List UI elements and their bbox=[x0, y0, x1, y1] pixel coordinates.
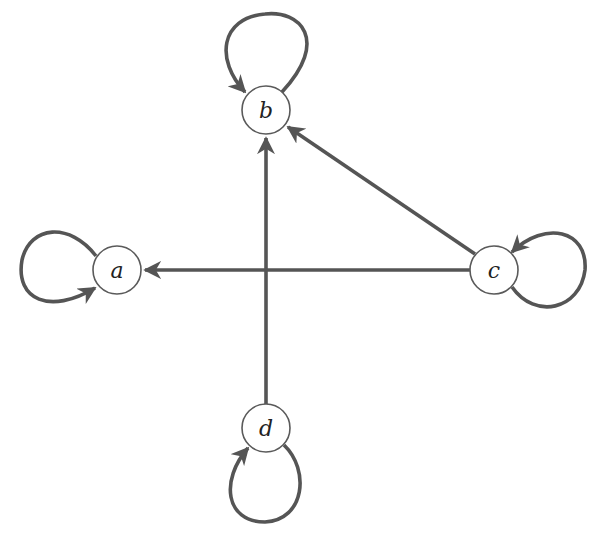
self-loop-a bbox=[21, 232, 96, 302]
node-label-a: a bbox=[110, 258, 123, 283]
self-loop-c bbox=[512, 233, 585, 307]
self-loop-b bbox=[226, 14, 307, 92]
directed-graph: a b c d bbox=[0, 0, 593, 537]
node-b[interactable]: b bbox=[242, 86, 290, 134]
node-d[interactable]: d bbox=[242, 404, 290, 452]
node-label-d: d bbox=[259, 416, 273, 441]
self-loop-d bbox=[230, 445, 300, 522]
node-c[interactable]: c bbox=[470, 246, 518, 294]
edge-c-to-b bbox=[288, 127, 475, 254]
node-label-c: c bbox=[488, 258, 500, 283]
node-a[interactable]: a bbox=[93, 246, 141, 294]
node-label-b: b bbox=[259, 98, 273, 123]
